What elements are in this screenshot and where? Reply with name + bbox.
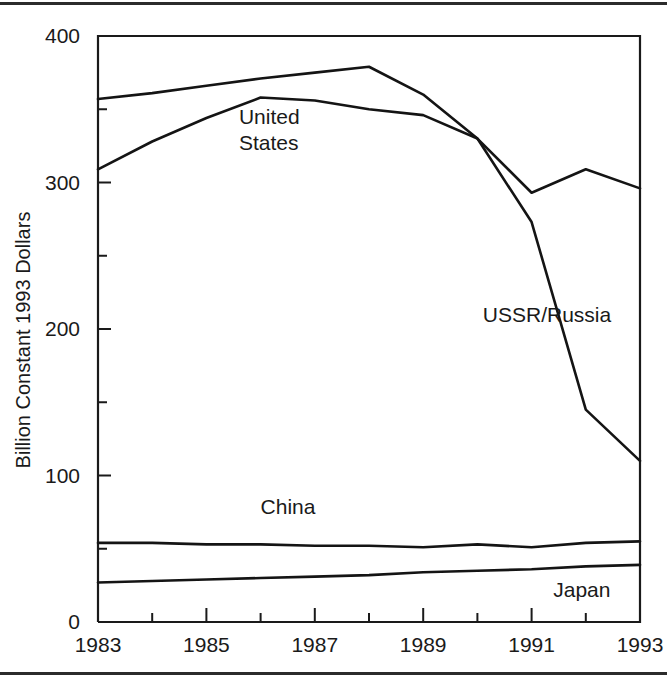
series-label-line: States xyxy=(239,131,299,154)
series-line-ussr-russia xyxy=(98,67,640,461)
series-annotations: USSR/RussiaUnitedStatesChinaJapan xyxy=(239,105,612,601)
x-tick-label: 1985 xyxy=(183,633,230,656)
series-label-line: Japan xyxy=(553,578,610,601)
x-tick-label: 1993 xyxy=(617,633,664,656)
y-tick-label: 400 xyxy=(45,24,80,47)
x-tick-label: 1983 xyxy=(75,633,122,656)
y-tick-label: 300 xyxy=(45,171,80,194)
series-line-china xyxy=(98,541,640,547)
x-tick-label: 1987 xyxy=(291,633,338,656)
plot-frame xyxy=(98,36,640,622)
series-line-united-states xyxy=(98,98,640,193)
x-tick-label: 1989 xyxy=(400,633,447,656)
y-tick-label: 100 xyxy=(45,464,80,487)
line-chart: 0100200300400 198319851987198919911993 B… xyxy=(0,0,667,678)
y-tick-label: 200 xyxy=(45,317,80,340)
series-label-united-states: UnitedStates xyxy=(239,105,300,154)
y-axis-title: Billion Constant 1993 Dollars xyxy=(12,212,34,469)
page-rule-bottom xyxy=(0,672,667,675)
series-label-line: China xyxy=(261,495,316,518)
x-tick-label: 1991 xyxy=(508,633,555,656)
series-label-japan: Japan xyxy=(553,578,610,601)
series-label-ussr-russia: USSR/Russia xyxy=(483,303,612,326)
series-label-line: United xyxy=(239,105,300,128)
y-axis-ticks xyxy=(98,36,111,622)
x-axis-ticks xyxy=(98,608,640,622)
series-label-line: USSR/Russia xyxy=(483,303,612,326)
series-label-china: China xyxy=(261,495,316,518)
y-axis-tick-labels: 0100200300400 xyxy=(45,24,80,633)
page-rule-top xyxy=(0,2,667,5)
y-tick-label: 0 xyxy=(68,610,80,633)
x-axis-tick-labels: 198319851987198919911993 xyxy=(75,633,664,656)
figure-container: 0100200300400 198319851987198919911993 B… xyxy=(0,0,667,678)
